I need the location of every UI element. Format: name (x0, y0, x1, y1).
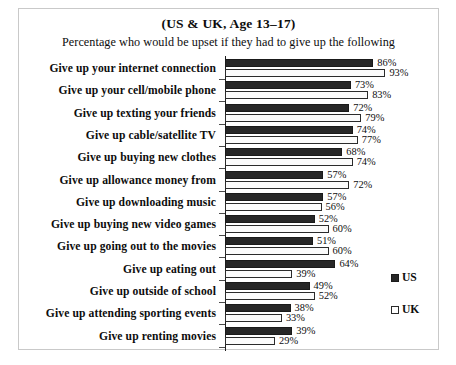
category-label: Give up downloading music (76, 197, 216, 209)
bar-us (225, 104, 349, 112)
bar-us (225, 215, 315, 223)
axis-tick (219, 257, 225, 258)
category-label: Give up going out to the movies (57, 242, 216, 254)
axis-tick (219, 280, 225, 281)
bar-pair: 73%83% (225, 80, 440, 102)
chart-subtitle: Percentage who would be upset if they ha… (19, 35, 438, 50)
bar-us (225, 237, 313, 245)
axis-tick (219, 79, 225, 80)
category-label: Give up texting your friends (74, 108, 216, 120)
bar-row: Give up allowance money from57%72% (19, 170, 440, 192)
bar-pair: 74%77% (225, 125, 440, 147)
bar-value-uk: 60% (333, 246, 352, 256)
bar-row: Give up your cell/mobile phone73%83% (19, 80, 440, 102)
bar-pair: 57%72% (225, 170, 440, 192)
axis-tick (219, 347, 225, 348)
legend-swatch-uk-icon (391, 306, 399, 314)
bar-row: Give up going out to the movies51%60% (19, 236, 440, 258)
bar-value-uk: 56% (326, 202, 345, 212)
bar-uk (225, 337, 275, 345)
category-label: Give up cable/satellite TV (86, 130, 216, 142)
chart-frame: (US & UK, Age 13–17) Percentage who woul… (18, 8, 439, 350)
chart-legend: US UK (391, 271, 419, 335)
category-label: Give up allowance money from (59, 175, 216, 187)
legend-item-uk: UK (391, 303, 419, 316)
bar-value-uk: 79% (365, 113, 384, 123)
bar-uk (225, 114, 361, 122)
category-label: Give up renting movies (99, 331, 216, 343)
plot-area: Give up your internet connection86%93%Gi… (19, 56, 440, 351)
chart-title: (US & UK, Age 13–17) (19, 16, 438, 32)
bar-value-uk: 83% (372, 90, 391, 100)
bar-row: Give up downloading music57%56% (19, 192, 440, 214)
bar-value-us: 64% (339, 259, 358, 269)
bar-value-uk: 29% (279, 336, 298, 346)
bar-uk (225, 158, 353, 166)
axis-tick (219, 146, 225, 147)
bar-value-uk: 52% (319, 291, 338, 301)
bar-row: Give up buying new video games52%60% (19, 214, 440, 236)
category-label: Give up buying new video games (51, 219, 216, 231)
bar-uk (225, 314, 282, 322)
bar-uk (225, 91, 368, 99)
bar-us (225, 126, 353, 134)
bar-us (225, 282, 310, 290)
bar-pair: 68%74% (225, 147, 440, 169)
bar-us (225, 193, 323, 201)
bar-row: Give up outside of school49%52% (19, 281, 440, 303)
axis-tick (219, 302, 225, 303)
legend-item-us: US (391, 271, 419, 284)
bar-us (225, 171, 323, 179)
bar-uk (225, 181, 349, 189)
legend-label-uk: UK (402, 303, 419, 316)
bar-uk (225, 270, 292, 278)
bar-value-uk: 72% (353, 180, 372, 190)
bar-pair: 51%60% (225, 236, 440, 258)
axis-tick (219, 324, 225, 325)
bar-pair: 57%56% (225, 192, 440, 214)
bar-us (225, 81, 351, 89)
bar-uk (225, 203, 322, 211)
bar-uk (225, 247, 329, 255)
bar-value-uk: 33% (286, 313, 305, 323)
bar-value-uk: 93% (389, 68, 408, 78)
legend-swatch-us-icon (391, 274, 399, 282)
axis-tick (219, 235, 225, 236)
bar-row: Give up texting your friends72%79% (19, 103, 440, 125)
bar-value-us: 39% (296, 326, 315, 336)
category-label: Give up attending sporting events (46, 309, 216, 321)
bar-row: Give up eating out64%39% (19, 259, 440, 281)
bar-value-uk: 60% (333, 224, 352, 234)
bar-uk (225, 225, 329, 233)
category-label: Give up eating out (123, 264, 216, 276)
category-label: Give up your cell/mobile phone (59, 86, 216, 98)
bar-row: Give up renting movies39%29% (19, 326, 440, 348)
bar-us (225, 59, 373, 67)
bar-pair: 86%93% (225, 58, 440, 80)
bar-value-uk: 77% (362, 135, 381, 145)
bar-pair: 72%79% (225, 103, 440, 125)
bar-pair: 52%60% (225, 214, 440, 236)
legend-label-us: US (402, 271, 417, 284)
bar-row: Give up cable/satellite TV74%77% (19, 125, 440, 147)
bar-row: Give up your internet connection86%93% (19, 58, 440, 80)
bar-row: Give up attending sporting events38%33% (19, 303, 440, 325)
bar-value-uk: 39% (296, 269, 315, 279)
bar-value-us: 73% (355, 80, 374, 90)
axis-tick (219, 213, 225, 214)
category-label: Give up your internet connection (49, 63, 216, 75)
axis-tick (219, 101, 225, 102)
axis-tick (219, 168, 225, 169)
bar-row: Give up buying new clothes68%74% (19, 147, 440, 169)
bar-uk (225, 292, 315, 300)
bar-us (225, 260, 335, 268)
category-label: Give up buying new clothes (77, 152, 216, 164)
axis-tick (219, 124, 225, 125)
bar-us (225, 327, 292, 335)
bar-uk (225, 69, 385, 77)
bar-value-uk: 74% (357, 157, 376, 167)
category-label: Give up outside of school (90, 286, 216, 298)
bar-us (225, 304, 291, 312)
bar-us (225, 148, 342, 156)
axis-tick (219, 191, 225, 192)
